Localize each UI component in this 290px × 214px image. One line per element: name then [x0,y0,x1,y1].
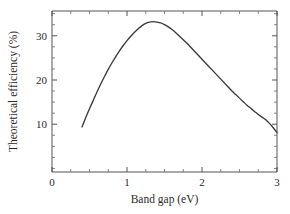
y-tick-label: 20 [36,74,48,86]
x-tick-label: 1 [124,176,130,188]
x-tick-label: 0 [49,176,55,188]
figure-container: 0123 102030 Band gap (eV) Theoretical ef… [0,0,290,214]
plot-area-background [52,11,277,172]
y-axis-title: Theoretical efficiency (%) [7,31,20,152]
y-tick-label: 30 [36,30,48,42]
chart-svg: 0123 102030 Band gap (eV) Theoretical ef… [0,0,290,214]
x-tick-label: 2 [199,176,205,188]
x-tick-label: 3 [274,176,280,188]
y-tick-label: 10 [36,118,48,130]
chart-page: 0123 102030 Band gap (eV) Theoretical ef… [0,0,290,214]
x-axis-title: Band gap (eV) [131,193,199,206]
